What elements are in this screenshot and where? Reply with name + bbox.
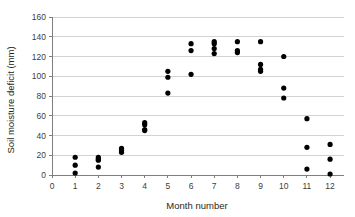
- data-point: [327, 142, 332, 147]
- data-point: [258, 69, 263, 74]
- data-point: [258, 39, 263, 44]
- data-point: [327, 157, 332, 162]
- data-point: [304, 145, 309, 150]
- data-points: [73, 39, 333, 177]
- x-axis-title: Month number: [166, 200, 227, 211]
- data-point: [281, 95, 286, 100]
- data-point: [281, 54, 286, 59]
- data-point: [235, 50, 240, 55]
- chart-canvas: 020406080100120140160 0123456789101112 M…: [0, 0, 355, 217]
- data-point: [304, 166, 309, 171]
- x-tick-label-2: 2: [96, 181, 101, 191]
- y-tick-label-0: 0: [41, 170, 46, 180]
- data-point: [188, 48, 193, 53]
- x-tick-label-0: 0: [50, 181, 55, 191]
- y-tick-label-140: 140: [32, 32, 46, 42]
- data-point: [258, 62, 263, 67]
- x-tick-label-4: 4: [142, 181, 147, 191]
- data-point: [304, 116, 309, 121]
- data-point: [188, 41, 193, 46]
- data-point: [327, 171, 332, 176]
- y-tick-label-40: 40: [37, 131, 47, 141]
- data-point: [73, 170, 78, 175]
- y-axis-tick-labels: 020406080100120140160: [32, 12, 46, 180]
- data-point: [165, 69, 170, 74]
- scatter-chart: 020406080100120140160 0123456789101112 M…: [0, 0, 355, 217]
- y-tick-label-20: 20: [37, 150, 47, 160]
- data-point: [212, 41, 217, 46]
- x-tick-label-9: 9: [258, 181, 263, 191]
- x-tick-label-1: 1: [73, 181, 78, 191]
- data-point: [73, 163, 78, 168]
- x-tick-label-8: 8: [235, 181, 240, 191]
- gridlines: [52, 17, 344, 155]
- x-tick-label-12: 12: [325, 181, 335, 191]
- data-point: [142, 122, 147, 127]
- data-point: [212, 51, 217, 56]
- data-point: [73, 155, 78, 160]
- data-point: [188, 72, 193, 77]
- data-point: [119, 150, 124, 155]
- tick-marks: [49, 17, 330, 178]
- data-point: [96, 158, 101, 163]
- y-tick-label-80: 80: [37, 91, 47, 101]
- y-tick-label-120: 120: [32, 52, 46, 62]
- x-tick-label-7: 7: [212, 181, 217, 191]
- x-tick-label-11: 11: [303, 181, 312, 191]
- y-tick-label-160: 160: [32, 12, 46, 22]
- x-axis-tick-labels: 0123456789101112: [50, 181, 335, 191]
- data-point: [235, 39, 240, 44]
- y-axis-title: Soil moisture deficit (mm): [5, 46, 16, 153]
- data-point: [142, 128, 147, 133]
- x-tick-label-10: 10: [279, 181, 289, 191]
- x-tick-label-5: 5: [166, 181, 171, 191]
- data-point: [281, 86, 286, 91]
- x-tick-label-6: 6: [189, 181, 194, 191]
- data-point: [165, 75, 170, 80]
- y-tick-label-100: 100: [32, 71, 46, 81]
- y-tick-label-60: 60: [37, 111, 47, 121]
- data-point: [165, 90, 170, 95]
- data-point: [96, 165, 101, 170]
- x-tick-label-3: 3: [119, 181, 124, 191]
- data-point: [212, 46, 217, 51]
